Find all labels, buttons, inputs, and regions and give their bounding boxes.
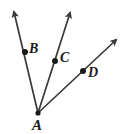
vertex-dot-a xyxy=(35,110,40,115)
point-dot-d xyxy=(80,68,86,74)
vertex-label-a: A xyxy=(32,118,42,133)
diagram-canvas xyxy=(0,0,123,134)
ray-ab-line xyxy=(14,12,38,113)
point-label-b: B xyxy=(29,42,38,56)
point-label-c: C xyxy=(60,51,69,65)
point-dot-b xyxy=(22,49,28,55)
angle-rays-diagram: B C D A xyxy=(0,0,123,134)
point-dots-group xyxy=(22,49,86,116)
point-dot-c xyxy=(52,58,58,64)
point-label-d: D xyxy=(88,66,98,80)
